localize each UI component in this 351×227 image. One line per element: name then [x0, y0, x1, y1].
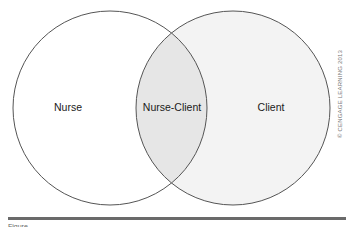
separator-rule [8, 217, 346, 220]
figure-caption: Figure [8, 223, 28, 227]
client-label: Client [258, 101, 285, 113]
nurse-label: Nurse [54, 101, 82, 113]
venn-diagram [0, 0, 351, 227]
copyright-text: © CENGAGE LEARNING 2013 [337, 50, 343, 138]
nurse-client-label: Nurse-Client [143, 101, 201, 113]
